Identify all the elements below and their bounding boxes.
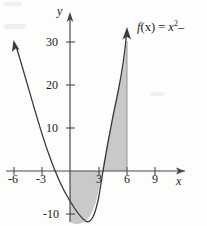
- plot-area: [0, 0, 207, 226]
- x-tick-label-neg3: -3: [36, 173, 46, 185]
- function-label: f(x) = x2–: [137, 21, 184, 34]
- function-arg: (x) =: [140, 20, 168, 34]
- y-tick-label-20: 20: [46, 79, 58, 91]
- curve-left-arrowhead: [12, 40, 20, 52]
- x-tick-label-9: 9: [152, 173, 158, 185]
- x-tick-label-6: 6: [124, 173, 130, 185]
- y-tick-label-10: 10: [46, 122, 58, 134]
- y-axis-label: y: [57, 5, 62, 17]
- x-axis-label: x: [176, 175, 181, 187]
- y-tick-label-neg10: -10: [43, 208, 59, 220]
- function-trailing: –: [178, 20, 184, 34]
- x-tick-label-neg6: -6: [8, 173, 18, 185]
- x-tick-label-3: 3: [96, 173, 102, 185]
- parabola-figure: -6 -3 3 6 9 30 20 10 -10 x y f(x) = x2–: [0, 0, 207, 226]
- y-tick-label-30: 30: [46, 36, 58, 48]
